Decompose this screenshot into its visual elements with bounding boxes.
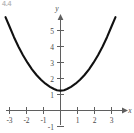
y-axis-arrow-icon — [58, 14, 64, 20]
x-tick-label: -2 — [23, 116, 29, 125]
x-tick-label: -3 — [6, 116, 12, 125]
x-axis — [6, 108, 128, 114]
parabola-figure: 4.4 — [0, 0, 134, 133]
x-tick-label: 2 — [93, 116, 97, 125]
x-axis-arrow-icon — [122, 108, 128, 114]
y-tick-label: 1 — [50, 91, 54, 100]
y-tick-label: -1 — [48, 123, 54, 132]
coordinate-plot: -3 -2 -1 1 2 3 -1 1 2 3 4 5 x y — [0, 0, 134, 133]
x-tick-label: 3 — [110, 116, 114, 125]
y-tick-label: 2 — [50, 75, 54, 84]
y-axis-label: y — [54, 4, 59, 13]
y-tick-labels: -1 1 2 3 4 5 — [48, 27, 55, 133]
y-tick-label: 5 — [50, 27, 54, 36]
x-tick-label: -1 — [40, 116, 46, 125]
x-axis-label: x — [127, 106, 132, 115]
y-tick-label: 4 — [50, 43, 54, 52]
y-tick-label: 3 — [50, 59, 54, 68]
x-tick-label: 1 — [76, 116, 80, 125]
